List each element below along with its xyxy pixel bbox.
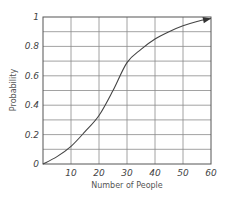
y-tick-label: 0.4 — [25, 100, 40, 110]
x-tick-label: 10 — [65, 168, 77, 178]
y-tick-label: 0 — [33, 159, 39, 169]
x-axis-ticks: 102030405060 — [65, 168, 217, 178]
arrowhead-icon — [203, 17, 211, 23]
y-tick-label: 1 — [33, 12, 39, 22]
y-tick-label: 0.2 — [25, 130, 40, 140]
grid-lines — [43, 17, 211, 164]
x-tick-label: 30 — [121, 168, 133, 178]
x-tick-label: 40 — [149, 168, 161, 178]
x-tick-label: 60 — [205, 168, 217, 178]
y-tick-label: 0.6 — [25, 71, 40, 81]
probability-chart: 00.20.40.60.81 102030405060 Number of Pe… — [0, 0, 229, 199]
x-tick-label: 50 — [177, 168, 189, 178]
y-tick-label: 0.8 — [25, 41, 40, 51]
x-axis-label: Number of People — [91, 181, 163, 190]
x-tick-label: 20 — [93, 168, 105, 178]
y-axis-label: Probability — [9, 69, 18, 112]
y-axis-ticks: 00.20.40.60.81 — [25, 12, 40, 169]
